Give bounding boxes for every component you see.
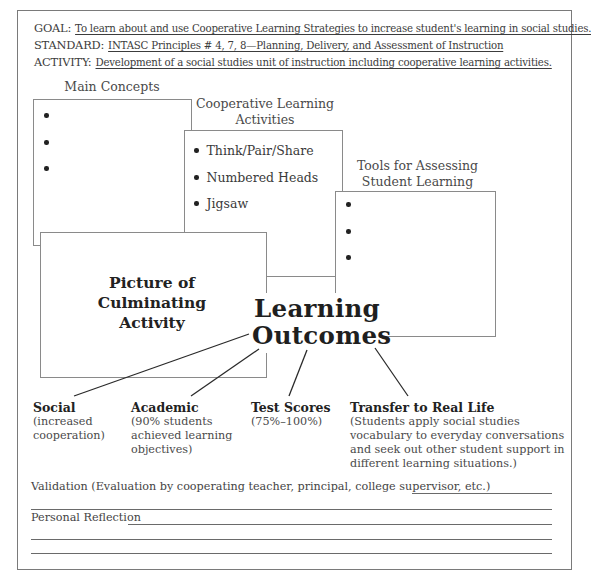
reflection-line-2[interactable] xyxy=(31,539,552,540)
connector-transfer xyxy=(375,348,408,396)
connector-social xyxy=(74,334,249,396)
validation-line-2[interactable] xyxy=(31,509,552,510)
validation-label: Validation (Evaluation by cooperating te… xyxy=(31,480,494,493)
connector-test-scores xyxy=(289,350,307,396)
reflection-blank[interactable] xyxy=(128,524,552,525)
outcome-social: Social (increased cooperation) xyxy=(33,400,105,443)
connector-academic xyxy=(191,349,259,396)
outcome-academic: Academic (90% students achieved learning… xyxy=(131,400,232,457)
reflection-line-3[interactable] xyxy=(31,553,552,554)
reflection-label: Personal Reflection xyxy=(31,511,145,524)
outcome-transfer: Transfer to Real Life (Students apply so… xyxy=(350,400,565,471)
validation-blank[interactable] xyxy=(412,493,552,494)
outcome-test-scores: Test Scores (75%–100%) xyxy=(251,400,331,429)
